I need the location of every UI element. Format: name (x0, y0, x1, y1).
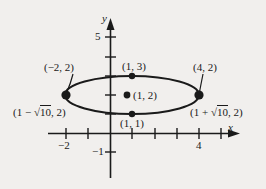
label-center: (1, 2) (133, 90, 157, 101)
label-left-vertex: (−2, 2) (44, 62, 74, 73)
tick-label-x-neg2: −2 (58, 140, 70, 151)
label-top-vertex: (1, 3) (122, 61, 146, 72)
label-left-focus-prefix: (1 − (13, 106, 34, 118)
y-axis-label: y (102, 13, 107, 24)
y-axis (107, 18, 115, 178)
label-right-focus-radicand: 10 (217, 105, 228, 118)
x-axis-label: x (228, 122, 233, 133)
leader-line-right-vertex (200, 74, 204, 92)
point-center (124, 92, 131, 99)
label-left-focus-suffix: , 2) (51, 106, 66, 118)
tick-label-y-5: 5 (95, 31, 101, 42)
point-right-vertex (194, 90, 203, 99)
label-bottom-vertex: (1, 1) (120, 118, 144, 129)
label-right-focus-suffix: , 2) (228, 106, 243, 118)
radical-symbol-right: √10 (211, 107, 228, 118)
leader-line-left-vertex (67, 74, 74, 93)
label-left-focus: (1 − √10, 2) (13, 107, 66, 118)
point-left-vertex (61, 90, 70, 99)
point-top-vertex (129, 73, 135, 79)
label-right-vertex: (4, 2) (193, 62, 217, 73)
label-right-focus: (1 + √10, 2) (190, 107, 243, 118)
label-left-focus-radicand: 10 (40, 105, 51, 118)
tick-label-y-neg1: −1 (92, 146, 104, 157)
x-axis (48, 130, 240, 138)
tick-label-x-4: 4 (196, 140, 202, 151)
radical-symbol-left: √10 (34, 107, 51, 118)
ellipse-figure: y x 5 −1 −2 4 (1, 3) (1, 1) (1, 2) (−2, … (0, 0, 266, 189)
ellipse-curve (65, 76, 199, 114)
label-right-focus-prefix: (1 + (190, 106, 211, 118)
